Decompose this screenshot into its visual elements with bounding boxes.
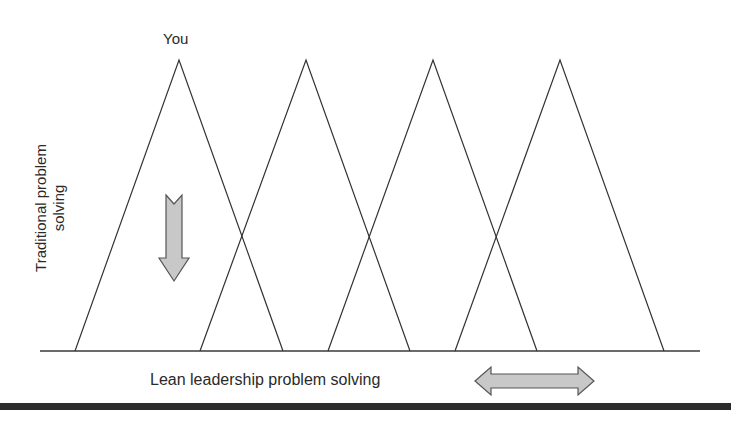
top-label: You <box>163 30 188 47</box>
horizontal-axis-label: Lean leadership problem solving <box>150 371 380 389</box>
triangle-4 <box>455 60 664 351</box>
diagram-canvas <box>0 0 731 423</box>
vertical-axis-label-line1: Traditional problem <box>32 144 50 272</box>
triangle-3 <box>328 60 537 351</box>
left-right-arrow-icon <box>475 367 594 395</box>
vertical-axis-label-line2: solving <box>50 144 68 272</box>
bottom-divider <box>0 403 731 410</box>
diagram: You Traditional problem solving Lean lea… <box>0 0 731 423</box>
down-arrow-icon <box>159 195 189 281</box>
